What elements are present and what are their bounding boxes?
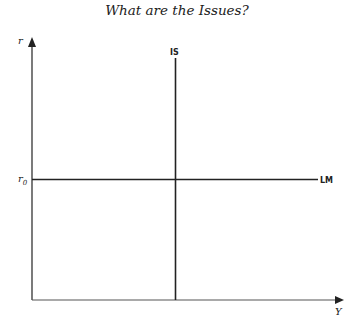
y-axis-arrow-icon [28,37,36,47]
x-axis-arrow-icon [335,296,344,304]
is-label: IS [170,48,179,57]
x-axis-label: Y [335,306,343,317]
lm-label: LM [320,176,333,185]
islm-diagram: r Y IS LM r0 [0,0,354,321]
r0-label: r0 [18,173,28,187]
y-axis-label: r [18,35,24,46]
